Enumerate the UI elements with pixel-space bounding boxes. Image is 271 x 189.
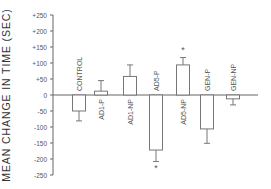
category-label: AD1-P [98, 99, 105, 120]
y-tick-label: +50 [36, 76, 47, 83]
y-tick-label: -200 [34, 156, 47, 163]
y-tick-label: -50 [38, 108, 48, 115]
y-tick-label: 0 [43, 92, 47, 99]
significance-marker: * [154, 163, 158, 173]
bar-ad5-p [150, 95, 163, 150]
significance-marker: * [181, 45, 185, 55]
category-label: AD5-NP [180, 99, 187, 125]
bar-ad1-np [124, 76, 137, 95]
bar-control [73, 95, 86, 111]
y-axis-title: MEAN CHANGE IN TIME (SEC) [0, 8, 12, 181]
chart-canvas: +250+200+150+100+500-50-100-150-200-250C… [0, 0, 271, 189]
category-label: GEN-P [204, 69, 211, 92]
y-tick-label: -150 [34, 140, 47, 147]
y-tick-label: +250 [32, 12, 47, 19]
bar-gen-np [227, 95, 240, 99]
bar-ad1-p [95, 91, 108, 95]
category-label: AD5-P [153, 70, 160, 91]
bar-chart: MEAN CHANGE IN TIME (SEC) +250+200+150+1… [0, 0, 271, 189]
bar-ad5-np [177, 65, 190, 95]
category-label: GEN-NP [230, 63, 237, 91]
y-tick-label: -100 [34, 124, 47, 131]
y-tick-label: +150 [32, 44, 47, 51]
y-tick-label: +100 [32, 60, 47, 67]
category-label: CONTROL [76, 57, 83, 91]
y-tick-label: -250 [34, 172, 47, 179]
y-tick-label: +200 [32, 28, 47, 35]
bar-gen-p [201, 95, 214, 129]
category-label: AD1-NP [127, 99, 134, 125]
